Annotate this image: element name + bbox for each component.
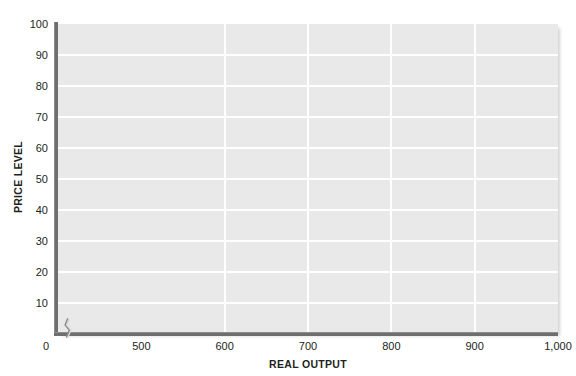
x-tick-label: 1,000 [535,340,576,352]
y-tick-label: 100 [18,18,48,30]
x-tick-label: 800 [368,340,414,352]
chart-figure: 100908070605040302010 05006007008009001,… [0,0,576,376]
gridline-vertical [474,24,476,334]
y-tick-label: 90 [18,49,48,61]
y-axis-title: PRICE LEVEL [12,127,24,227]
plot-area [58,24,558,334]
y-tick-label: 30 [18,235,48,247]
x-tick-label: 700 [285,340,331,352]
x-tick-label: 0 [23,340,69,352]
x-tick-label: 900 [452,340,498,352]
x-axis-line [54,332,558,336]
y-tick-label: 20 [18,266,48,278]
y-tick-label: 70 [18,111,48,123]
x-axis-title: REAL OUTPUT [58,358,558,370]
y-tick-label: 80 [18,80,48,92]
x-tick-label: 500 [118,340,164,352]
y-tick-label: 10 [18,297,48,309]
gridline-vertical [307,24,309,334]
x-tick-label: 600 [202,340,248,352]
x-axis-break-icon [60,318,76,338]
gridline-vertical [390,24,392,334]
gridline-vertical [224,24,226,334]
y-axis-line [54,22,58,336]
